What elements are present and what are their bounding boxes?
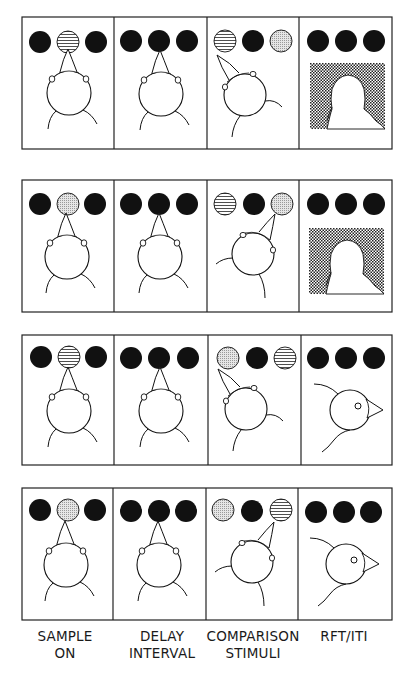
row-4 [22, 488, 392, 620]
column-label-delay-interval: DELAY INTERVAL [118, 628, 206, 662]
label-line: ON [30, 645, 100, 662]
pigeon-front-icon [138, 213, 188, 293]
panel-sample-on [29, 31, 107, 129]
pigeon-front-icon [44, 521, 94, 601]
trial-sequence-diagram [0, 0, 415, 683]
label-line: SAMPLE [30, 628, 100, 645]
panel-reinforcement [305, 501, 382, 606]
pigeon-front-icon [139, 367, 189, 447]
label-line: INTERVAL [118, 645, 206, 662]
panel-delay-interval [120, 500, 197, 601]
panel-comparison-stimuli [214, 30, 292, 137]
pigeon-front-icon [137, 521, 187, 601]
food-hopper-icon [309, 228, 384, 294]
row-1 [22, 17, 392, 149]
pigeon-side-icon [314, 384, 383, 452]
pigeon-peck-left-icon [218, 369, 283, 451]
panel-comparison-stimuli [214, 193, 293, 298]
panel-comparison-stimuli [212, 499, 292, 606]
panel-sample-on [29, 193, 106, 293]
panel-delay-interval [120, 193, 198, 293]
label-line: COMPARISON [203, 628, 303, 645]
panel-delay-interval [120, 347, 199, 447]
label-line: STIMULI [203, 645, 303, 662]
key-right-dark [85, 31, 107, 53]
panel-reinforcement [307, 30, 385, 129]
panel-sample-on [29, 499, 106, 601]
key-left-dark [29, 31, 51, 53]
panel-reinforcement [307, 347, 385, 452]
panel-delay-interval [120, 30, 198, 130]
pigeon-peck-left-icon [217, 55, 282, 137]
food-hopper-icon [310, 63, 385, 129]
label-line: RFT/ITI [308, 628, 380, 645]
pigeon-front-icon [139, 50, 189, 130]
pigeon-front-icon [47, 367, 97, 447]
row-3 [22, 335, 392, 465]
column-label-comparison-stimuli: COMPARISON STIMULI [203, 628, 303, 662]
column-label-rft-iti: RFT/ITI [308, 628, 380, 645]
pigeon-side-icon [310, 538, 379, 606]
row-2 [22, 180, 392, 312]
panel-reinforcement [307, 193, 385, 294]
panel-comparison-stimuli [217, 347, 296, 451]
pigeon-front-icon [45, 213, 95, 293]
column-label-sample-on: SAMPLE ON [30, 628, 100, 662]
label-line: DELAY [118, 628, 206, 645]
pigeon-peck-right-icon [215, 522, 275, 606]
pigeon-front-icon [47, 49, 97, 129]
pigeon-peck-right-icon [216, 214, 276, 298]
panel-sample-on [30, 346, 107, 447]
